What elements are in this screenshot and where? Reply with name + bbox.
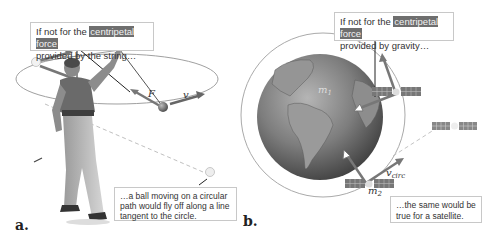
callout-tangent-ball: …a ball moving on a circular path would … (114, 187, 237, 221)
panel-label-a: a. (15, 217, 29, 233)
panel-label-b: b. (243, 213, 258, 229)
satellite-1 (372, 87, 421, 96)
velocity-label-v: v (183, 89, 189, 100)
centripetal-force-figure: F v (0, 0, 501, 240)
panel-b-graphics: m1 m2 vcirc (241, 33, 477, 198)
force-label-F: F (147, 88, 156, 99)
callout-gravity-force: If not for the centripetal force provide… (334, 12, 454, 41)
callout-string-force: If not for the centripetal force provide… (30, 22, 154, 51)
callout-text: true for a satellite. (396, 211, 464, 221)
shadow-mark (34, 158, 42, 162)
satellite-tangent-path (393, 126, 440, 156)
callout-pointer (199, 179, 207, 185)
callout-text: provided by the string… (36, 50, 136, 61)
callout-text: tangent to the circle. (120, 211, 197, 221)
callout-text: provided by gravity… (340, 40, 429, 51)
callout-text: If not for the (36, 26, 89, 37)
callout-text: If not for the (340, 16, 393, 27)
callout-text: path would fly off along a line (120, 201, 229, 211)
released-ball (206, 168, 215, 177)
ball (158, 102, 168, 112)
callout-satellite: …the same would be true for a satellite. (390, 196, 482, 223)
callout-text: …a ball moving on a circular (120, 191, 227, 201)
callout-text: …the same would be (396, 200, 476, 210)
released-satellite (432, 122, 477, 130)
velocity-label-vcirc: vcirc (386, 167, 405, 180)
